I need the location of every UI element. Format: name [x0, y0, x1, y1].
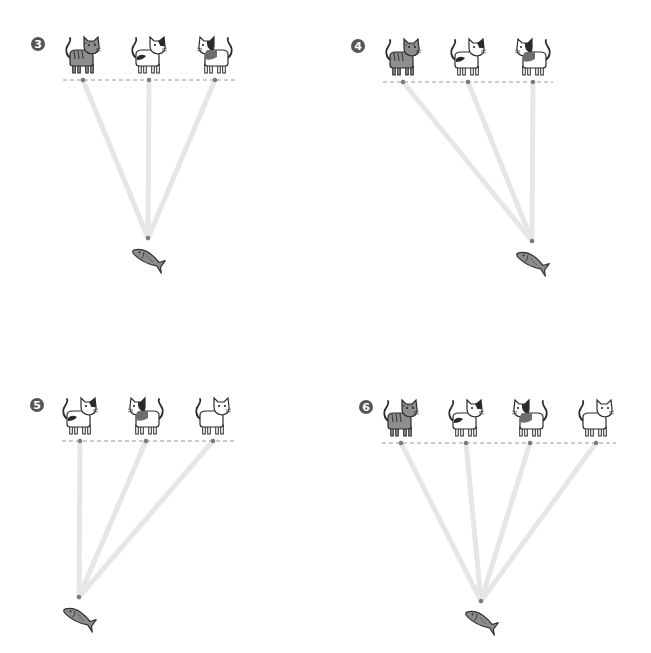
panel-6: 6 [359, 400, 616, 635]
baseline-dot [594, 441, 598, 445]
beams [401, 443, 596, 601]
step-number-badge: 3 [31, 37, 45, 51]
baseline-dot [531, 80, 535, 84]
cat-bicolor-icon [451, 39, 486, 75]
baseline-dot [211, 439, 215, 443]
apex-dot [146, 236, 150, 240]
beam-line [83, 80, 148, 238]
apex-dot [77, 595, 81, 599]
cat-calico-icon [515, 39, 550, 75]
cats-and-fish-diagram: 3456 [0, 0, 651, 653]
beams [403, 82, 533, 241]
apex-dot [530, 239, 534, 243]
step-number-badge: 6 [359, 400, 373, 414]
cat-tabby-icon [66, 37, 101, 73]
baseline-dot [466, 80, 470, 84]
baseline-dot [464, 441, 468, 445]
step-number: 4 [354, 40, 362, 53]
cat-tabby-icon [384, 400, 419, 436]
cat-bicolor-icon [132, 37, 167, 73]
baseline-dot [147, 78, 151, 82]
beam-line [79, 441, 146, 597]
fish-icon [129, 246, 167, 273]
panel-3: 3 [31, 37, 236, 273]
beam-line [468, 82, 532, 241]
step-number: 3 [34, 38, 42, 51]
step-number: 5 [33, 399, 41, 412]
step-number-badge: 5 [30, 398, 44, 412]
baseline-dot [528, 441, 532, 445]
step-number: 6 [362, 401, 370, 414]
beams [83, 80, 215, 238]
baseline-dot [78, 439, 82, 443]
cat-bicolor-icon [63, 398, 98, 434]
cat-calico-icon [512, 400, 547, 436]
fish-icon [513, 249, 551, 276]
beam-line [481, 443, 596, 601]
beam-line [79, 441, 213, 597]
beam-line [79, 441, 80, 597]
panel-4: 4 [351, 39, 553, 276]
beam-line [403, 82, 532, 241]
cat-calico-icon [197, 37, 232, 73]
cat-white-icon [196, 398, 231, 434]
beam-line [532, 82, 533, 241]
fish-icon [60, 605, 98, 632]
beam-line [481, 443, 530, 601]
beams [79, 441, 213, 597]
baseline-dot [144, 439, 148, 443]
baseline-dot [401, 80, 405, 84]
cat-white-icon [579, 400, 614, 436]
cat-calico-icon [128, 398, 163, 434]
step-number-badge: 4 [351, 39, 365, 53]
baseline-dot [213, 78, 217, 82]
cat-tabby-icon [386, 39, 421, 75]
baseline-dot [81, 78, 85, 82]
panel-5: 5 [30, 398, 234, 632]
cat-bicolor-icon [449, 400, 484, 436]
apex-dot [479, 599, 483, 603]
baseline-dot [399, 441, 403, 445]
beam-line [148, 80, 215, 238]
fish-icon [462, 608, 500, 635]
beam-line [148, 80, 149, 238]
